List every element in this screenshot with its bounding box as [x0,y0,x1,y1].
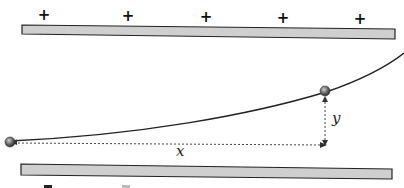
bottom-plate [21,164,392,179]
x-dimension-line [14,143,322,145]
top-plate [22,25,395,39]
charge-plus: + [354,10,367,28]
bottom-mark [122,185,130,188]
trajectory-curve [10,53,404,141]
particle-ball-icon [5,137,15,147]
particle-ball-icon [320,86,330,96]
x-label: x [176,142,185,160]
charge-plus: + [277,9,290,27]
y-label: y [331,109,341,127]
charge-plus: + [122,7,135,25]
charge-plus: + [38,6,51,24]
bottom-mark [44,185,52,188]
charge-plus: + [200,8,213,26]
y-arrowhead-icon [322,96,328,102]
charges: + + + + + [38,6,367,28]
deflection-diagram: + + + + + x y [0,0,404,188]
